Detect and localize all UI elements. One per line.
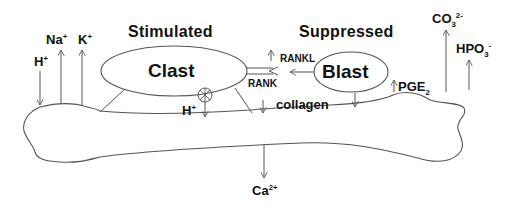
pge2-label: PGE2: [398, 80, 430, 93]
rankl-label: RANKL: [280, 54, 315, 64]
suppressed-title: Suppressed: [299, 24, 394, 40]
na-label: Na+: [46, 33, 67, 46]
h-left-label: H+: [34, 55, 48, 68]
rank-label: RANK: [248, 79, 277, 89]
ca-label: Ca2+: [252, 184, 278, 197]
lacuna-left-edge: [100, 89, 125, 112]
stimulated-title: Stimulated: [128, 24, 213, 40]
lacuna-right-edge: [235, 88, 252, 113]
clast-label: Clast: [148, 61, 194, 80]
bone-outline: [24, 93, 465, 163]
proton-pump-icon: [198, 88, 212, 102]
co3-label: CO32-: [432, 12, 463, 25]
h-pump-label: H+: [182, 104, 196, 117]
k-label: K+: [78, 33, 92, 46]
blast-label: Blast: [322, 62, 368, 81]
collagen-label: collagen: [276, 98, 329, 111]
hpo3-label: HPO3-: [456, 42, 491, 55]
